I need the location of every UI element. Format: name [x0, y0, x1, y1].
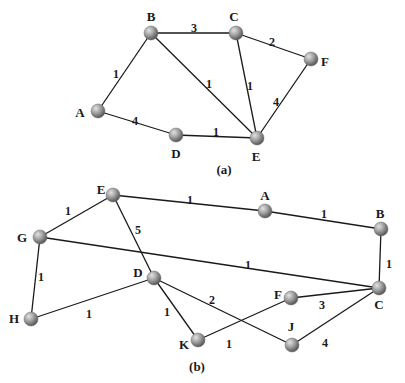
edge-weight-b-K-F: 1 [226, 337, 232, 351]
node-b-F [284, 291, 298, 305]
edge-weight-a-B-C: 3 [191, 21, 197, 35]
node-label-b-B: B [376, 206, 385, 221]
edge-weight-b-A-B: 1 [321, 207, 327, 221]
edge-weight-b-E-D: 5 [135, 223, 141, 237]
node-label-a-A: A [75, 105, 85, 120]
node-b-A [258, 204, 272, 218]
edge-b-H-D [31, 278, 154, 319]
edge-weight-a-C-E: 1 [247, 79, 253, 93]
edge-b-G-E [40, 195, 113, 237]
node-b-J [285, 338, 299, 352]
graph-a-edges: 13211441 [98, 21, 311, 139]
node-a-F [304, 52, 318, 66]
node-label-b-H: H [9, 311, 19, 326]
graph-a-caption: (a) [216, 162, 231, 177]
node-b-G [33, 230, 47, 244]
node-label-b-D: D [133, 265, 142, 280]
edge-a-F-E [257, 59, 311, 138]
edge-weight-b-G-C: 1 [245, 258, 251, 272]
edge-weight-b-B-C: 1 [386, 257, 392, 271]
edge-b-D-J [154, 278, 292, 345]
node-b-C [372, 281, 386, 295]
node-a-C [229, 26, 243, 40]
node-b-H [24, 312, 38, 326]
node-b-K [191, 333, 205, 347]
node-a-D [169, 128, 183, 142]
node-label-a-E: E [252, 149, 261, 164]
node-label-b-F: F [274, 287, 282, 302]
node-label-a-C: C [229, 9, 238, 24]
edge-weight-b-G-E: 1 [65, 204, 71, 218]
edge-weight-a-B-E: 1 [206, 77, 212, 91]
edge-weight-a-D-E: 1 [213, 125, 219, 139]
edge-weight-a-C-F: 2 [269, 35, 275, 49]
edge-weight-b-D-J: 2 [209, 293, 215, 307]
node-label-b-E: E [97, 182, 106, 197]
graph-b-edges: 1115111112134 [31, 193, 392, 351]
node-label-b-A: A [260, 188, 270, 203]
edge-a-B-E [151, 33, 257, 138]
node-label-b-K: K [179, 337, 190, 352]
graph-a: 13211441 ABCDEF (a) [75, 9, 329, 177]
node-label-a-F: F [321, 54, 329, 69]
node-label-a-B: B [147, 9, 156, 24]
node-a-B [144, 26, 158, 40]
node-label-a-D: D [171, 146, 180, 161]
edge-weight-a-A-B: 1 [113, 67, 119, 81]
graph-a-nodes: ABCDEF [75, 9, 329, 164]
node-label-b-J: J [288, 319, 295, 334]
graph-b-caption: (b) [189, 359, 205, 374]
graph-b: 1115111112134 EABGDCFHKJ (b) [9, 182, 392, 374]
edge-weight-b-F-C: 3 [319, 298, 325, 312]
node-label-b-G: G [17, 230, 27, 245]
node-b-B [374, 222, 388, 236]
node-b-D [147, 271, 161, 285]
edge-b-D-K [154, 278, 198, 340]
edge-weight-b-J-C: 4 [322, 336, 328, 350]
edge-weight-a-A-D: 4 [132, 114, 138, 128]
edge-weight-a-F-E: 4 [273, 95, 279, 109]
graph-diagram: 13211441 ABCDEF (a) 1115111112134 EABGDC… [0, 0, 405, 383]
node-a-A [91, 104, 105, 118]
edge-weight-b-H-D: 1 [86, 307, 92, 321]
edge-weight-b-D-K: 1 [164, 305, 170, 319]
edge-weight-b-G-H: 1 [38, 270, 44, 284]
node-label-b-C: C [374, 297, 383, 312]
edge-weight-b-E-A: 1 [187, 193, 193, 207]
edge-b-G-C [40, 237, 379, 288]
edge-b-B-C [379, 229, 381, 288]
edge-a-A-B [98, 33, 151, 111]
node-a-E [250, 131, 264, 145]
node-b-E [106, 188, 120, 202]
